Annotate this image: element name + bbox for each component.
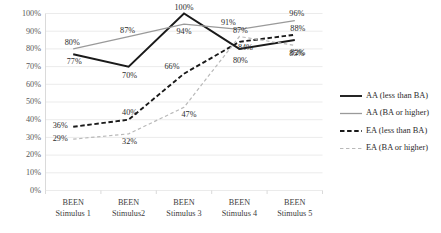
legend-item-label[interactable]: EA (less than BA) (366, 126, 427, 135)
data-label: 66% (164, 62, 179, 71)
y-axis-tick-label: 70% (26, 62, 41, 71)
legend-item-label[interactable]: AA (less than BA) (366, 91, 428, 100)
data-label: 96% (289, 9, 304, 18)
y-axis-tick-label: 10% (26, 168, 41, 177)
data-label: 82% (290, 48, 305, 57)
legend-item-label[interactable]: EA (BA or higher) (366, 143, 428, 152)
data-label: 77% (67, 57, 82, 66)
chart-container: 100%90%80%70%60%50%40%30%20%10%0%BEENSti… (0, 0, 441, 233)
data-label: 80% (233, 56, 248, 65)
x-axis-tick-label: BEEN (173, 198, 194, 207)
y-axis-tick-label: 30% (26, 133, 41, 142)
data-label: 87% (233, 26, 248, 35)
y-axis-tick-label: 20% (26, 150, 41, 159)
data-label: 80% (65, 38, 80, 47)
data-label: 29% (53, 134, 68, 143)
x-axis-tick-label: BEEN (63, 198, 84, 207)
x-axis-tick-label: Stimulus 1 (56, 209, 91, 218)
y-axis-tick-label: 90% (26, 27, 41, 36)
data-label: 40% (122, 108, 137, 117)
y-axis-tick-label: 50% (26, 97, 41, 106)
x-axis-tick-label: BEEN (229, 198, 250, 207)
data-label: 84% (238, 43, 253, 52)
y-axis-tick-label: 60% (26, 80, 41, 89)
data-label: 32% (122, 137, 137, 146)
data-label: 94% (176, 27, 191, 36)
data-label: 70% (122, 71, 137, 80)
y-axis-tick-label: 40% (26, 115, 41, 124)
x-axis-tick-label: BEEN (284, 198, 305, 207)
x-axis-tick-label: Stimulus 5 (277, 209, 312, 218)
line-chart: 100%90%80%70%60%50%40%30%20%10%0%BEENSti… (0, 0, 441, 233)
series-line (73, 37, 295, 140)
x-axis-tick-label: BEEN (118, 198, 139, 207)
data-label: 47% (181, 110, 196, 119)
data-label: 100% (174, 3, 193, 12)
data-label: 88% (290, 24, 305, 33)
legend-item-label[interactable]: AA (BA or higher) (366, 108, 429, 117)
x-axis-tick-label: Stimulus2 (112, 209, 145, 218)
data-label: 87% (120, 26, 135, 35)
x-axis-tick-label: Stimulus 3 (166, 209, 201, 218)
y-axis-tick-label: 0% (30, 186, 41, 195)
x-axis-tick-label: Stimulus 4 (222, 209, 257, 218)
y-axis-tick-label: 100% (22, 9, 41, 18)
y-axis-tick-label: 80% (26, 44, 41, 53)
data-label: 36% (53, 121, 68, 130)
